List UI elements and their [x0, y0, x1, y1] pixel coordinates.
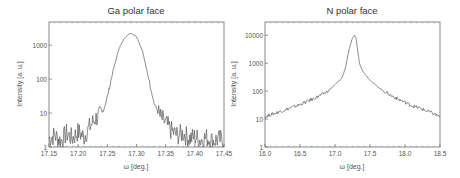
chart-n-polar-face: N polar face 16.016.517.017.518.018.5110…: [230, 5, 447, 171]
x-tick-label: 16.5: [294, 150, 307, 157]
y-tick-label: 1: [43, 144, 47, 151]
x-tick-label: 17.30: [128, 150, 145, 157]
y-axis-label: Intensity [a. u.]: [16, 61, 24, 107]
y-tick-label: 100: [252, 88, 263, 95]
x-tick-label: 17.35: [158, 150, 175, 157]
x-tick-label: 17.25: [99, 150, 116, 157]
y-tick-label: 1: [259, 144, 263, 151]
x-axis-label: ω [deg.]: [340, 163, 365, 171]
y-tick-label: 10: [40, 110, 48, 117]
y-tick-label: 1000: [33, 42, 48, 49]
x-tick-label: 17.5: [364, 150, 377, 157]
plot-frame: [265, 22, 440, 147]
plot-frame: [49, 22, 224, 147]
figure: Ga polar face 17.1517.2017.2517.3017.351…: [0, 0, 460, 178]
y-tick-label: 100: [36, 76, 47, 83]
x-tick-label: 18.5: [434, 150, 447, 157]
x-tick-label: 17.20: [70, 150, 87, 157]
data-line: [49, 33, 224, 147]
y-tick-label: 10: [256, 116, 264, 123]
data-line: [265, 35, 440, 118]
x-tick-label: 16.0: [259, 150, 272, 157]
chart-title: Ga polar face: [107, 5, 164, 16]
x-tick-label: 18.0: [399, 150, 412, 157]
x-tick-label: 17.40: [187, 150, 204, 157]
chart-ga-polar-face: Ga polar face 17.1517.2017.2517.3017.351…: [16, 5, 233, 171]
y-axis-label: Intensity [a. u.]: [230, 61, 238, 107]
x-tick-label: 17.45: [216, 150, 233, 157]
axis-ticks: 17.1517.2017.2517.3017.3517.4017.4511010…: [33, 22, 233, 157]
x-axis-label: ω [deg.]: [124, 163, 149, 171]
x-tick-label: 17.15: [41, 150, 58, 157]
y-tick-label: 10000: [245, 32, 263, 39]
y-tick-label: 1000: [249, 60, 264, 67]
x-tick-label: 17.0: [329, 150, 342, 157]
axis-ticks: 16.016.517.017.518.018.5110100100010000: [245, 22, 447, 157]
chart-title: N polar face: [326, 5, 377, 16]
